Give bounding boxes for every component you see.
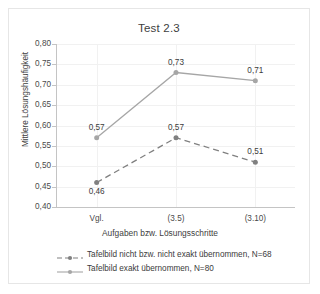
data-point-marker[interactable] [94, 135, 99, 140]
series-line [97, 138, 256, 183]
data-point-marker[interactable] [253, 160, 258, 165]
y-axis-tick-label: 0,45 [25, 183, 51, 191]
chart-container: Test 2.3 0,400,450,500,550,600,650,700,7… [8, 8, 310, 284]
y-axis-tick-mark [52, 126, 56, 127]
x-axis-tick-labels: Vgl.(3.5)(3.10) [57, 214, 295, 226]
data-point-label: 0,57 [168, 124, 184, 132]
y-axis-tick-mark [52, 146, 56, 147]
data-point-label: 0,71 [247, 67, 263, 75]
data-point-label: 0,46 [89, 188, 105, 196]
y-axis-tick-mark [52, 105, 56, 106]
data-point-marker[interactable] [253, 78, 258, 83]
legend-item-dashed[interactable]: Tafelbild nicht bzw. nicht exakt übernom… [9, 247, 311, 261]
legend-label-solid: Tafelbild exakt übernommen, N=80 [87, 264, 214, 273]
y-axis-tick-mark [52, 85, 56, 86]
data-point-label: 0,51 [247, 148, 263, 156]
data-point-marker[interactable] [94, 180, 99, 185]
data-point-marker[interactable] [174, 135, 179, 140]
y-axis-tick-label: 0,40 [25, 203, 51, 211]
legend-marker-solid-icon [57, 263, 83, 273]
data-point-label: 0,73 [168, 59, 184, 67]
y-axis-tick-mark [52, 44, 56, 45]
x-axis-tick-label: Vgl. [90, 214, 104, 223]
x-axis-line [56, 207, 295, 208]
y-axis-tick-mark [52, 64, 56, 65]
y-axis-title: Mittlere Lösungshäufigkeit [21, 40, 30, 160]
x-axis-tick-label: (3.10) [245, 214, 266, 223]
chart-legend: Tafelbild nicht bzw. nicht exakt übernom… [9, 247, 311, 275]
y-axis-tick-mark [52, 166, 56, 167]
data-point-label: 0,57 [89, 124, 105, 132]
chart-title: Test 2.3 [9, 22, 309, 34]
legend-label-dashed: Tafelbild nicht bzw. nicht exakt übernom… [87, 250, 272, 259]
y-axis-tick-label: 0,50 [25, 162, 51, 170]
legend-item-solid[interactable]: Tafelbild exakt übernommen, N=80 [9, 261, 311, 275]
x-axis-tick-label: (3.5) [168, 214, 185, 223]
y-axis-tick-mark [52, 187, 56, 188]
legend-marker-dashed-icon [57, 249, 83, 259]
y-axis-tick-mark [52, 207, 56, 208]
x-axis-title: Aufgaben bzw. Lösungsschritte [9, 228, 311, 238]
plot-area: 0,460,570,510,570,730,71 [57, 44, 295, 207]
data-point-marker[interactable] [174, 70, 179, 75]
